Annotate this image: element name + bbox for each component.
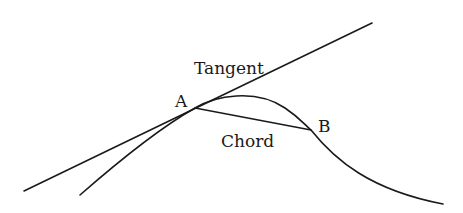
- chord-label: Chord: [221, 131, 274, 151]
- tangent-chord-diagram: Tangent Chord A B: [0, 0, 463, 213]
- tangent-label: Tangent: [194, 58, 264, 78]
- chord-line: [195, 108, 311, 130]
- point-b-label: B: [318, 116, 331, 136]
- point-a-label: A: [174, 91, 188, 111]
